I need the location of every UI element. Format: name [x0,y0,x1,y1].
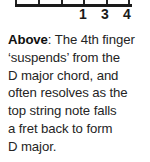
finger-number-string-6: 4 [120,7,134,22]
caption-lead-in: Above [8,32,48,47]
caption-line-5: top string note falls [8,102,148,120]
chord-diagram: 1 3 4 [0,0,150,28]
caption-line-6: a fret back to form [8,120,148,138]
caption-paragraph: Above: The 4th finger ‘suspends’ from th… [8,31,148,156]
chord-grid [15,0,130,6]
finger-number-string-4: 1 [76,7,90,22]
caption-line-3: D major chord, and [8,67,148,85]
finger-number-row: 1 3 4 [0,7,150,24]
finger-number-string-5: 3 [98,7,112,22]
caption-line-1: Above: The 4th finger [8,31,148,49]
caption-line-1-text: The 4th finger [51,32,134,47]
caption-line-2: ‘suspends’ from the [8,49,148,67]
caption-line-7: D major. [8,138,148,156]
caption-line-4: often resolves as the [8,84,148,102]
